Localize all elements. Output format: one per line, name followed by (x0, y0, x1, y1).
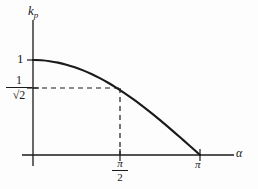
x-tick-halfpi-denominator: 2 (112, 172, 128, 183)
y-tick-invroot2-denominator: √2 (6, 89, 32, 101)
plot-canvas (0, 0, 258, 189)
x-axis-label: α (236, 147, 242, 159)
x-tick-label-halfpi: π 2 (112, 158, 128, 183)
x-tick-halfpi-numerator: π (112, 158, 128, 169)
y-axis-label: kp (28, 4, 38, 20)
y-tick-invroot2-numerator: 1 (6, 74, 32, 86)
kp-curve (33, 60, 200, 155)
x-tick-label-pi: π (195, 159, 201, 170)
pitch-factor-figure: kp α 1 1 √2 π 2 π (0, 0, 258, 189)
y-tick-label-invroot2: 1 √2 (6, 74, 32, 101)
y-axis-label-subscript: p (34, 10, 39, 20)
y-tick-label-one: 1 (17, 52, 24, 65)
